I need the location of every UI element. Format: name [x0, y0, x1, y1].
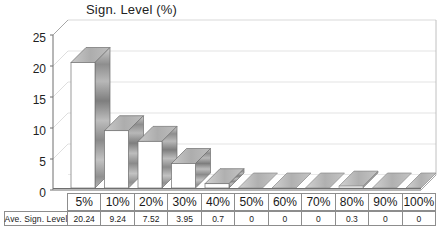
data-cell-50pct: 0: [234, 211, 267, 226]
x-cell-80pct: 80%: [335, 193, 368, 211]
y-tick-0: 0: [20, 186, 46, 200]
x-cell-60pct: 60%: [268, 193, 301, 211]
y-tick-10: 10: [20, 124, 46, 138]
x-cell-40pct: 40%: [201, 193, 234, 211]
data-cell-70pct: 0: [301, 211, 334, 226]
data-cell-90pct: 0: [368, 211, 401, 226]
data-cell-10pct: 9.24: [100, 211, 133, 226]
x-cell-20pct: 20%: [134, 193, 167, 211]
y-tick-20: 20: [20, 62, 46, 76]
x-axis-category-row: 5% 10% 20% 30% 40% 50% 60% 70% 80% 90% 1…: [67, 193, 436, 211]
data-cell-60pct: 0: [268, 211, 301, 226]
bar-10pct[interactable]: [105, 116, 144, 188]
data-cell-20pct: 7.52: [134, 211, 167, 226]
x-cell-30pct: 30%: [167, 193, 200, 211]
x-cell-50pct: 50%: [234, 193, 267, 211]
data-cell-80pct: 0.3: [335, 211, 368, 226]
y-axis: [50, 35, 53, 190]
data-row-label: Ave. Sign. Level: [4, 211, 67, 226]
data-cell-40pct: 0.7: [201, 211, 234, 226]
bar-20pct[interactable]: [138, 126, 177, 188]
x-cell-70pct: 70%: [301, 193, 334, 211]
x-cell-10pct: 10%: [100, 193, 133, 211]
chart-root: Sign. Level (%): [0, 0, 440, 233]
y-tick-5: 5: [20, 155, 46, 169]
data-cell-5pct: 20.24: [67, 211, 100, 226]
y-tick-25: 25: [20, 31, 46, 45]
x-cell-90pct: 90%: [368, 193, 401, 211]
x-cell-100pct: 100%: [402, 193, 436, 211]
data-table-row: Ave. Sign. Level 20.24 9.24 7.52 3.95 0.…: [4, 211, 436, 226]
data-cell-100pct: 0: [402, 211, 436, 226]
y-tick-15: 15: [20, 93, 46, 107]
x-cell-5pct: 5%: [67, 193, 100, 211]
data-cell-30pct: 3.95: [167, 211, 200, 226]
left-wall: [53, 20, 68, 190]
